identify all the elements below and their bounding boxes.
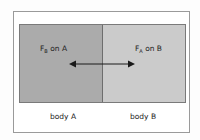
diagram-canvas: FB on A FA on B body A body B	[0, 0, 200, 140]
body-b-label: body B	[130, 113, 156, 121]
force-suffix: on A	[48, 44, 67, 53]
double-headed-arrow-icon	[69, 59, 135, 69]
force-suffix: on B	[143, 44, 162, 53]
force-a-on-b-label: FA on B	[135, 45, 162, 54]
body-a-label: body A	[50, 113, 76, 121]
force-b-on-a-label: FB on A	[40, 45, 67, 54]
